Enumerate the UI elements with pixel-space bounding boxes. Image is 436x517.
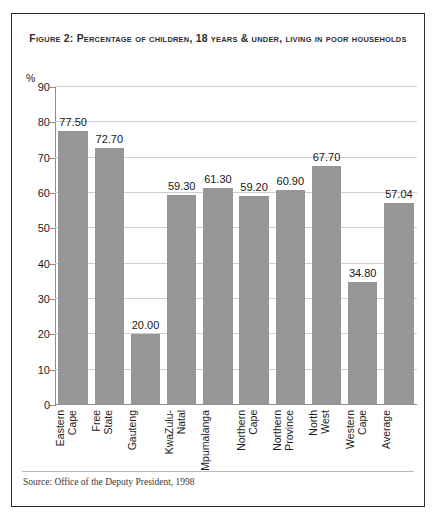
y-tick-label-60: 60	[24, 188, 50, 199]
x-label-northern-cape: Northern Cape	[236, 410, 272, 451]
bar-value-label-2: 20.00	[127, 320, 164, 331]
y-axis-tick-labels: 0102030405060708090	[12, 14, 50, 506]
y-tick-label-0: 0	[24, 400, 50, 411]
bar-value-label-0: 77.50	[54, 117, 91, 128]
bar-kwazulu-natal[interactable]	[167, 195, 196, 405]
x-label-eastern-cape: Eastern Cape	[55, 410, 91, 446]
source-note: Source: Office of the Deputy President, …	[23, 477, 195, 487]
y-tick-mark-80	[50, 122, 55, 123]
y-tick-mark-0	[50, 405, 55, 406]
y-tick-label-80: 80	[24, 117, 50, 128]
x-label-gauteng: Gauteng	[127, 410, 163, 450]
x-label-kwazulu-natal: KwaZulu- Natal	[164, 410, 200, 454]
x-label-average: Average	[381, 410, 417, 449]
bar-north-west[interactable]	[312, 166, 341, 405]
y-tick-mark-90	[50, 87, 55, 88]
y-tick-label-70: 70	[24, 152, 50, 163]
bar-value-label-4: 61.30	[199, 174, 236, 185]
y-tick-label-10: 10	[24, 364, 50, 375]
y-tick-mark-30	[50, 299, 55, 300]
y-tick-label-30: 30	[24, 294, 50, 305]
figure-container: Figure 2: Percentage of children, 18 yea…	[11, 13, 425, 507]
bar-eastern-cape[interactable]	[58, 131, 87, 405]
bar-northern-province[interactable]	[276, 190, 305, 405]
y-tick-mark-50	[50, 228, 55, 229]
x-label-northern-province: Northern Province	[272, 410, 308, 451]
source-divider	[22, 471, 414, 472]
bar-value-label-8: 34.80	[344, 268, 381, 279]
bar-gauteng[interactable]	[131, 334, 160, 405]
bar-free-state[interactable]	[95, 148, 124, 405]
bar-mpumalanga[interactable]	[203, 188, 232, 405]
y-tick-label-90: 90	[24, 82, 50, 93]
bar-value-label-3: 59.30	[163, 181, 200, 192]
bar-value-label-6: 60.90	[272, 176, 309, 187]
bar-value-label-7: 67.70	[308, 152, 345, 163]
gridline-80	[55, 121, 417, 122]
x-label-mpumalanga: Mpumalanga	[200, 410, 236, 471]
figure-title: Figure 2: Percentage of children, 18 yea…	[26, 32, 409, 44]
y-tick-label-20: 20	[24, 329, 50, 340]
x-label-western-cape: Western Cape	[345, 410, 381, 449]
plot-area: 77.5072.7020.0059.3061.3059.2060.9067.70…	[55, 87, 417, 405]
y-tick-mark-10	[50, 370, 55, 371]
y-tick-mark-60	[50, 193, 55, 194]
y-tick-label-50: 50	[24, 223, 50, 234]
bar-value-label-9: 57.04	[380, 189, 417, 200]
y-tick-mark-20	[50, 334, 55, 335]
y-tick-label-40: 40	[24, 258, 50, 269]
bar-average[interactable]	[384, 203, 413, 405]
x-label-north-west: North West	[308, 410, 344, 436]
x-label-free-state: Free State	[91, 410, 127, 435]
y-tick-mark-70	[50, 158, 55, 159]
bar-northern-cape[interactable]	[239, 196, 268, 405]
bar-value-label-5: 59.20	[235, 182, 272, 193]
y-tick-mark-40	[50, 264, 55, 265]
bar-value-label-1: 72.70	[91, 134, 128, 145]
gridline-90	[55, 86, 417, 87]
bar-western-cape[interactable]	[348, 282, 377, 405]
